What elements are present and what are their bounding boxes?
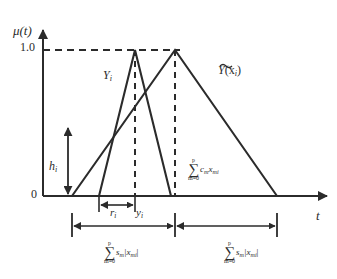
summation-body: sm|xmi| [116,247,138,259]
label-r-i: ri [110,207,116,219]
sigma-icon: p ∑ m=0 [104,241,115,264]
sigma-icon: p ∑ m=0 [188,158,199,181]
label-y-i: Yi [103,69,112,83]
summation-right-span: p ∑ m=0 sm|xmi| [224,241,258,264]
y-tick-zero: 0 [31,188,37,200]
summation-c-m-x-mi: p ∑ m=0 cmxmi [188,158,219,181]
label-y-tilde: Y(xi) [218,64,241,78]
label-y-i-center: yi [136,207,143,219]
x-axis-label: t [316,209,320,222]
label-h-i: hi [49,160,57,174]
summation-body: cmxmi [200,164,219,176]
sigma-icon: p ∑ m=0 [224,241,235,264]
y-tick-one: 1.0 [20,41,35,53]
membership-function-figure: μ(t) 1.0 0 t Yi Y(xi) hi ri yi p ∑ m=0 c… [0,0,337,279]
figure-canvas [0,0,337,279]
summation-body: sm|xmi| [236,247,258,259]
summation-left-span: p ∑ m=0 sm|xmi| [104,241,138,264]
y-axis-label: μ(t) [13,24,32,37]
